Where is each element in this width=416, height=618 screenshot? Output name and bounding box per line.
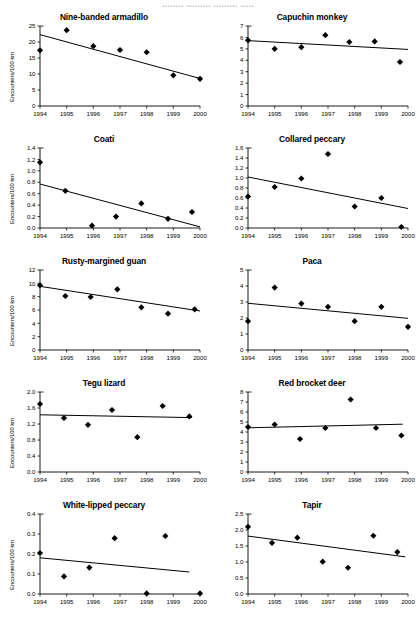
data-point-nine-banded-armadillo	[117, 47, 123, 53]
plot-area-paca: 0123451994199519961997199819992000	[208, 254, 416, 376]
x-tick-label-tegu-lizard: 1998	[140, 476, 154, 483]
y-tick-label-red-brocket-deer: 3	[240, 438, 244, 445]
data-point-tegu-lizard	[134, 434, 140, 440]
y-tick-label-red-brocket-deer: 1	[240, 458, 244, 465]
axis-lines-white-lipped-peccary	[40, 514, 200, 594]
x-tick-label-tapir: 1996	[295, 598, 309, 605]
x-tick-label-nine-banded-armadillo: 2000	[193, 110, 207, 117]
y-tick-label-paca: 4	[240, 282, 244, 289]
plot-area-rusty-margined-guan: 0246810121994199519961997199819992000	[0, 254, 208, 376]
panel-tegu-lizard: Tegu lizardEncounters/100 km0.00.40.81.2…	[0, 376, 208, 498]
plot-area-red-brocket-deer: 0123456781994199519961997199819992000	[208, 376, 416, 498]
x-tick-label-collared-peccary: 1996	[295, 232, 309, 239]
panel-coati: CoatiEncounters/100 km0.00.20.40.60.81.0…	[0, 132, 208, 254]
data-point-paca	[378, 304, 384, 310]
plot-area-coati: 0.00.20.40.60.81.01.21.41994199519961997…	[0, 132, 208, 254]
trend-line-nine-banded-armadillo	[40, 35, 200, 79]
data-point-red-brocket-deer	[297, 436, 303, 442]
panels-grid: Nine-banded armadilloEncounters/100 km05…	[0, 10, 416, 618]
data-point-red-brocket-deer	[245, 424, 251, 430]
y-tick-label-capuchin-monkey: 2	[240, 79, 244, 86]
y-tick-label-rusty-margined-guan: 8	[32, 293, 36, 300]
x-tick-label-rusty-margined-guan: 1998	[140, 354, 154, 361]
axis-lines-collared-peccary	[248, 148, 408, 228]
x-tick-label-nine-banded-armadillo: 1999	[167, 110, 181, 117]
x-tick-label-capuchin-monkey: 2000	[401, 110, 415, 117]
data-point-red-brocket-deer	[398, 432, 404, 438]
x-tick-label-collared-peccary: 1994	[241, 232, 255, 239]
y-tick-label-capuchin-monkey: 4	[240, 56, 244, 63]
y-tick-label-capuchin-monkey: 5	[240, 45, 244, 52]
x-tick-label-capuchin-monkey: 1994	[241, 110, 255, 117]
x-tick-label-white-lipped-peccary: 1995	[60, 598, 74, 605]
data-point-collared-peccary	[245, 193, 251, 199]
data-point-white-lipped-peccary	[37, 550, 43, 556]
y-tick-label-tapir: 2.5	[235, 510, 244, 517]
y-tick-label-capuchin-monkey: 0	[240, 102, 244, 109]
figure-panel-grid: ........ ......... ......... ..... Nine-…	[0, 0, 416, 618]
axis-lines-nine-banded-armadillo	[40, 26, 200, 106]
y-tick-label-red-brocket-deer: 8	[240, 388, 244, 395]
data-point-paca	[405, 324, 411, 330]
data-point-coati	[165, 216, 171, 222]
y-tick-label-collared-peccary: 0.4	[235, 204, 244, 211]
data-point-red-brocket-deer	[348, 396, 354, 402]
data-point-tapir	[269, 540, 275, 546]
data-point-nine-banded-armadillo	[170, 72, 176, 78]
plot-area-collared-peccary: 0.00.20.40.60.81.01.21.41.61994199519961…	[208, 132, 416, 254]
data-point-tegu-lizard	[109, 407, 115, 413]
y-tick-label-nine-banded-armadillo: 0	[32, 102, 36, 109]
data-point-collared-peccary	[352, 203, 358, 209]
y-tick-label-tegu-lizard: 0.8	[27, 436, 36, 443]
data-point-tegu-lizard	[37, 401, 43, 407]
data-point-tapir	[394, 549, 400, 555]
data-point-rusty-margined-guan	[62, 293, 68, 299]
y-tick-label-collared-peccary: 1.6	[235, 144, 244, 151]
y-tick-label-collared-peccary: 0.6	[235, 194, 244, 201]
cut-off-header-text: ........ ......... ......... .....	[0, 0, 416, 10]
panel-capuchin-monkey: Capuchin monkey0123456719941995199619971…	[208, 10, 416, 132]
data-point-paca	[272, 285, 278, 291]
data-point-collared-peccary	[398, 224, 404, 230]
trend-line-tapir	[248, 536, 405, 557]
data-point-capuchin-monkey	[245, 37, 251, 43]
data-point-tegu-lizard	[85, 422, 91, 428]
y-tick-label-tapir: 1.5	[235, 542, 244, 549]
trend-line-capuchin-monkey	[248, 41, 408, 50]
data-point-tegu-lizard	[160, 403, 166, 409]
y-tick-label-coati: 1.4	[27, 144, 36, 151]
x-tick-label-nine-banded-armadillo: 1995	[60, 110, 74, 117]
x-tick-label-coati: 1995	[60, 232, 74, 239]
plot-area-tapir: 0.00.51.01.52.02.51994199519961997199819…	[208, 498, 416, 618]
x-tick-label-nine-banded-armadillo: 1996	[87, 110, 101, 117]
x-tick-label-tegu-lizard: 1996	[87, 476, 101, 483]
x-tick-label-coati: 1998	[140, 232, 154, 239]
y-tick-label-tegu-lizard: 2.0	[27, 388, 36, 395]
x-tick-label-capuchin-monkey: 1996	[295, 110, 309, 117]
x-tick-label-tapir: 1997	[321, 598, 335, 605]
y-tick-label-nine-banded-armadillo: 20	[29, 38, 36, 45]
data-point-paca	[352, 318, 358, 324]
data-point-capuchin-monkey	[322, 32, 328, 38]
y-tick-label-tegu-lizard: 1.2	[27, 420, 36, 427]
x-tick-label-coati: 1997	[113, 232, 127, 239]
axis-lines-red-brocket-deer	[248, 392, 408, 472]
y-tick-label-collared-peccary: 1.2	[235, 164, 244, 171]
x-tick-label-coati: 1999	[167, 232, 181, 239]
x-tick-label-red-brocket-deer: 2000	[401, 476, 415, 483]
panel-white-lipped-peccary: White-lipped peccaryEncounters/100 km0.0…	[0, 498, 208, 618]
y-tick-label-paca: 5	[240, 266, 244, 273]
y-tick-label-paca: 3	[240, 298, 244, 305]
y-tick-label-rusty-margined-guan: 6	[32, 306, 36, 313]
y-tick-label-white-lipped-peccary: 0.0	[27, 590, 36, 597]
data-point-collared-peccary	[325, 151, 331, 157]
plot-area-capuchin-monkey: 012345671994199519961997199819992000	[208, 10, 416, 132]
y-tick-label-coati: 0.0	[27, 224, 36, 231]
data-point-tegu-lizard	[186, 413, 192, 419]
x-tick-label-paca: 1994	[241, 354, 255, 361]
y-tick-label-paca: 0	[240, 346, 244, 353]
x-tick-label-collared-peccary: 1998	[348, 232, 362, 239]
data-point-paca	[325, 304, 331, 310]
data-point-tapir	[320, 559, 326, 565]
data-point-capuchin-monkey	[372, 38, 378, 44]
